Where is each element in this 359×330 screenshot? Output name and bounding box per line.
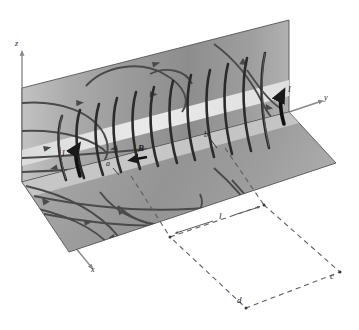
x-axis-label: x [91,266,95,274]
solenoid-field-figure: z y x I I B a b l c d [0,0,359,330]
corner-label-d: d [237,296,242,305]
coil-label-a: a [106,160,110,168]
current-label-right: I [288,86,291,94]
z-axis-label: z [15,40,18,48]
y-axis [289,101,322,112]
amperian-rectangle [170,205,340,308]
current-label-left: I [62,150,65,158]
length-label-l: l [219,212,222,221]
amperian-corner-marks [169,204,342,310]
y-axis-label: y [324,94,328,102]
magnetic-field-label: B [138,144,144,153]
corner-label-c: c [330,272,334,281]
figure-canvas [0,0,359,330]
coil-label-b: b [204,131,208,139]
